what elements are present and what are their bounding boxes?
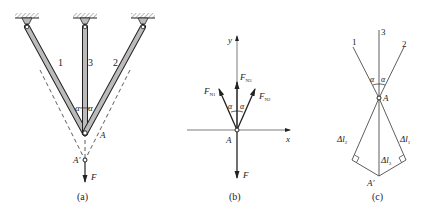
panel-c: 1 3 2 α α A A′ Δl2 Δl1 Δl3 (c) <box>336 27 411 203</box>
bar-2 <box>85 27 143 133</box>
support-left <box>15 13 39 24</box>
angle-label-left: α <box>75 103 80 113</box>
f-label: F <box>242 170 249 180</box>
panel-a: 1 3 2 α α A A′ F (a) <box>15 13 155 203</box>
angle-label-right: α <box>381 75 386 84</box>
bar-label-1: 1 <box>58 57 63 68</box>
line-label-1: 1 <box>352 37 357 47</box>
fn3-label: FN3 <box>239 72 252 83</box>
x-axis-label: x <box>285 134 290 144</box>
origin-label: A <box>225 135 232 145</box>
dl1-line <box>379 98 406 160</box>
bar-label-3: 3 <box>88 57 93 68</box>
caption-b: (b) <box>229 191 241 203</box>
angle-label-left: α <box>228 102 233 111</box>
truss-diagram: 1 3 2 α α A A′ F (a) y x A FN3 FN1 FN2 F… <box>0 0 426 216</box>
node-a-label: A <box>382 93 389 103</box>
line-1 <box>353 47 379 98</box>
load-label: F <box>90 172 97 182</box>
right-angle-right <box>399 155 404 163</box>
fn2-label: FN2 <box>258 91 271 102</box>
dl2-line <box>352 98 379 160</box>
angle-label-right: α <box>240 102 245 111</box>
angle-label-right: α <box>88 103 93 113</box>
dl2-label: Δl2 <box>336 134 348 145</box>
node-a-prime-label: A′ <box>366 178 375 188</box>
line-2 <box>379 47 404 98</box>
y-axis-label: y <box>227 35 232 45</box>
caption-a: (a) <box>77 191 88 203</box>
bar-1 <box>27 27 85 133</box>
fn1-label: FN1 <box>203 86 216 97</box>
origin-a <box>235 128 239 132</box>
node-a-prime <box>83 158 87 162</box>
right-angle-left <box>355 155 360 163</box>
line-label-3: 3 <box>381 27 386 37</box>
angle-label-left: α <box>370 75 375 84</box>
dl1-label: Δl1 <box>399 134 411 145</box>
panel-b: y x A FN3 FN1 FN2 F α α (b) <box>187 35 290 203</box>
support-middle <box>73 13 97 24</box>
bar-label-2: 2 <box>113 57 118 68</box>
node-a-prime-label: A′ <box>72 155 81 165</box>
node-a <box>377 96 381 100</box>
caption-c: (c) <box>372 191 383 203</box>
line-label-2: 2 <box>402 39 407 49</box>
support-right <box>131 13 155 24</box>
dl3-label: Δl3 <box>380 155 392 166</box>
node-a <box>83 131 87 135</box>
node-a-label: A <box>99 130 106 140</box>
